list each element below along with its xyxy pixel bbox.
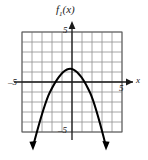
parabola-graph-svg: [0, 0, 148, 160]
parabola-curve: [29, 69, 109, 151]
function-label: f1(x): [56, 4, 75, 18]
y-tick-label-top: 5: [63, 26, 68, 35]
x-axis-label: x: [136, 76, 140, 85]
y-tick-label-bottom: –5: [58, 126, 67, 135]
curve-right-arrow-icon: [102, 141, 109, 151]
y-axis-arrow-icon: [69, 21, 76, 29]
curve-left-arrow-icon: [29, 141, 36, 151]
graph-figure: f1(x) 5 –5 –5 5 x: [0, 0, 148, 160]
function-label-argument: (x): [63, 3, 75, 15]
x-tick-label-left: –5: [8, 78, 17, 87]
x-tick-label-right: 5: [119, 84, 124, 93]
x-axis-arrow-icon: [126, 79, 133, 86]
